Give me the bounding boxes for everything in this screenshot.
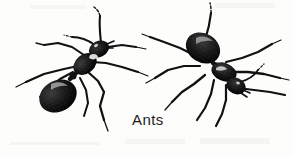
ant-right-leg-6-tarsus <box>272 40 281 44</box>
ant-right-leg-3-tarsus <box>165 102 172 110</box>
ants-drawing <box>0 0 293 157</box>
ant-right-leg-4 <box>197 80 214 120</box>
ant-left-leg-1-tarsus <box>36 43 44 45</box>
ant-right <box>142 3 289 126</box>
ant-left-leg-5-tarsus <box>138 72 148 76</box>
ant-left-antennae <box>64 7 101 45</box>
ant-left-leg-7 <box>80 78 88 116</box>
ant-left-leg-6 <box>88 72 104 120</box>
ant-left-leg-5 <box>92 62 138 72</box>
ant-right-leg-5 <box>216 85 226 126</box>
ant-right-leg-1-tarsus <box>142 34 150 37</box>
ants-illustration-figure: Ants <box>0 0 293 157</box>
ant-left-gaster <box>34 73 83 119</box>
ant-left-antenna-scape <box>100 16 101 43</box>
ant-right-leg-2-tarsus <box>146 78 155 83</box>
ant-left-leg-4-tarsus <box>136 47 146 49</box>
ant-left-antenna-scape-2 <box>72 37 95 45</box>
ant-left-antenna-funiculus <box>94 7 100 16</box>
figure-caption: Ants <box>132 112 164 127</box>
ant-right-antenna-funiculus <box>210 3 211 13</box>
ant-right-leg-3 <box>172 75 205 102</box>
ant-right-antenna-funiculus-2 <box>258 64 264 70</box>
ant-left-petiole-node <box>69 72 76 79</box>
ant-right-leg-2 <box>155 66 200 78</box>
ant-left-leg-1 <box>44 43 84 55</box>
ant-left-leg-6-tarsus <box>104 120 108 131</box>
ant-left-antenna-funiculus-2 <box>64 35 72 37</box>
ant-left <box>16 7 148 131</box>
ant-right-leg-7-tarsus <box>280 78 289 80</box>
ant-left-leg-2-tarsus <box>16 82 26 87</box>
ant-right-leg-6 <box>226 44 272 62</box>
